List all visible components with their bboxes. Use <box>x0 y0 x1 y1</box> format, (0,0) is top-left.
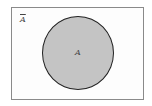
complement-label: A <box>20 16 26 24</box>
set-a-label: A <box>75 49 81 57</box>
